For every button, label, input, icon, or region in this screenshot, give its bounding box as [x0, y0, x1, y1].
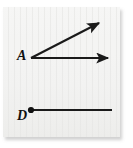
- point-d-dot: [28, 107, 34, 113]
- point-label-d: D: [17, 109, 27, 123]
- ray-A-upper: [31, 23, 99, 58]
- geometry-figure: A D: [0, 0, 133, 148]
- vertex-label-a: A: [17, 49, 26, 63]
- geometry-drawing: [0, 0, 133, 148]
